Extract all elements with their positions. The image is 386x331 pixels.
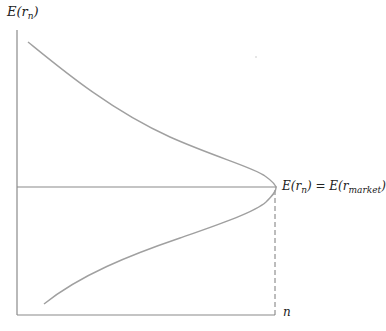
x-axis-label: n bbox=[283, 306, 291, 318]
y-axis-label: E(rn) bbox=[7, 5, 39, 21]
upper-return-curve bbox=[28, 42, 276, 188]
lower-return-curve bbox=[44, 188, 276, 304]
equilibrium-label: E(rn) = E(rmarket) bbox=[282, 180, 386, 195]
stray-dot bbox=[255, 56, 256, 57]
